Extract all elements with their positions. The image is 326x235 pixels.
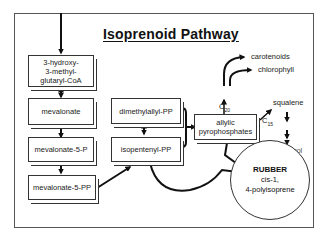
label-c20-sub: 20	[224, 107, 230, 113]
node-allylic-pyrophosphates: allylic pyrophosphates	[194, 114, 257, 140]
node-mevalonate: mevalonate	[28, 98, 94, 125]
node-allylic-line-2: pyrophosphates	[199, 127, 252, 136]
node-isopentenyl-pp: isopentenyl-PP	[111, 137, 181, 162]
node-isopentenyl-pp-label: isopentenyl-PP	[121, 145, 171, 154]
arrow-5pp-isopentenyl	[97, 167, 130, 188]
arrow-ipp-rubber	[150, 163, 238, 191]
arrow-bracket-to-allylic	[182, 108, 186, 147]
node-rubber: RUBBER cis-1, 4-polyisoprene	[230, 140, 310, 220]
arrow-chlorophyll	[230, 70, 251, 86]
label-squalene: squalene	[273, 98, 303, 107]
node-mevalonate-5p: mevalonate-5-P	[28, 137, 94, 162]
node-mevalonate-5pp: mevalonate-5-PP	[28, 175, 96, 200]
node-rubber-title: RUBBER	[253, 165, 287, 175]
node-rubber-line-2: 4-polyisoprene	[245, 185, 294, 195]
node-allylic-line-1: allylic	[216, 118, 234, 127]
label-carotenoids: carotenoids	[251, 52, 290, 61]
node-hmg-coa: 3-hydroxy- 3-methyl- glutaryl-CoA	[28, 55, 94, 87]
node-mevalonate-5pp-label: mevalonate-5-PP	[33, 183, 91, 192]
node-mevalonate-5p-label: mevalonate-5-P	[35, 145, 88, 154]
node-dimethylallyl-pp-label: dimethylallyl-PP	[119, 107, 172, 116]
node-dimethylallyl-pp: dimethylallyl-PP	[111, 98, 181, 124]
node-hmg-coa-line-3: glutaryl-CoA	[40, 76, 81, 85]
label-c20: C20	[219, 102, 230, 113]
node-rubber-line-1: cis-1,	[261, 175, 279, 185]
label-chlorophyll: chlorophyll	[258, 65, 294, 74]
isoprenoid-pathway-diagram: Isoprenoid Pathway	[0, 0, 326, 235]
node-mevalonate-label: mevalonate	[42, 107, 81, 116]
node-hmg-coa-line-1: 3-hydroxy-	[43, 58, 78, 67]
label-c15-sub: 15	[267, 121, 273, 127]
label-c15: C15	[262, 116, 273, 127]
node-hmg-coa-line-2: 3-methyl-	[45, 67, 76, 76]
